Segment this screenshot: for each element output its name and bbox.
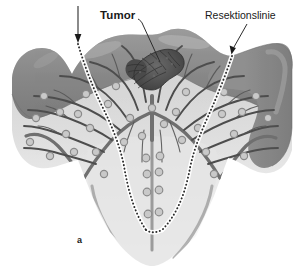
figure-container: Tumor Resektionslinie a — [0, 0, 305, 267]
lymph-node — [218, 110, 225, 117]
lymph-node — [82, 90, 89, 97]
lymph-node — [156, 152, 164, 160]
lymph-node — [264, 114, 271, 121]
lymph-node — [70, 148, 77, 155]
lymph-node — [62, 130, 69, 137]
lymph-node — [92, 148, 99, 155]
lymph-node — [230, 130, 237, 137]
lymph-node — [155, 186, 163, 194]
lymph-node — [143, 170, 151, 178]
lymph-node — [144, 210, 152, 218]
lymph-node — [120, 138, 127, 145]
lymph-node — [56, 108, 63, 115]
lymph-node — [138, 132, 145, 139]
lymph-node — [32, 114, 39, 121]
lymph-node — [46, 152, 53, 159]
lymph-node — [238, 108, 245, 115]
lymph-node — [126, 114, 133, 121]
lymph-node — [104, 100, 111, 107]
lymph-node — [26, 138, 33, 145]
panel-label: a — [77, 235, 83, 245]
lymph-node — [210, 170, 217, 177]
lymph-node — [74, 110, 81, 117]
lymph-node — [182, 88, 189, 95]
lymph-node — [252, 92, 259, 99]
lymph-node — [155, 208, 163, 216]
lymph-node — [40, 92, 47, 99]
resection-line-label: Resektionslinie — [205, 9, 276, 21]
lymph-node — [240, 152, 247, 159]
lymph-node — [202, 148, 209, 155]
tumor-label: Tumor — [100, 9, 136, 21]
arrow-left-head — [75, 34, 82, 43]
lymph-node — [148, 104, 155, 111]
lymph-node — [142, 154, 150, 162]
lymph-node — [155, 168, 163, 176]
lymph-node — [178, 136, 185, 143]
lymph-node — [100, 170, 107, 177]
bowel-lymphatic-drainage-illustration: Tumor Resektionslinie a — [0, 0, 305, 267]
lymph-node — [86, 124, 93, 131]
lymph-node — [143, 188, 151, 196]
lymph-node — [172, 108, 179, 115]
resection-leader-line — [234, 24, 247, 47]
lymph-node — [160, 120, 167, 127]
lymph-node — [112, 82, 119, 89]
arrow-right-head — [230, 45, 236, 54]
